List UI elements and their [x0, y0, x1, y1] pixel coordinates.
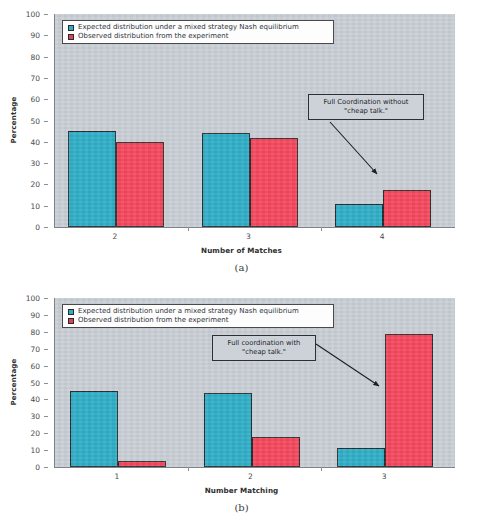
x-axis-ticks-a: 234: [54, 227, 454, 243]
bar-2-series-1: [204, 393, 252, 467]
bar-3-series-1: [202, 133, 250, 227]
panel-caption-a: (a): [0, 262, 483, 273]
y-tick-label: 80: [30, 327, 40, 336]
x-tick-label: 2: [248, 472, 253, 481]
annotation-line-2: "cheap talk.": [218, 348, 310, 357]
y-axis-title-a: Percentage: [10, 96, 18, 143]
legend-item-observed: Observed distribution from the experimen…: [68, 317, 327, 324]
x-axis-title-b: Number Matching: [0, 486, 483, 495]
y-tick-mark: [44, 416, 48, 417]
x-tick-mark: [188, 467, 189, 471]
y-tick-mark: [44, 78, 48, 79]
annotation-line-1: Full coordination with: [218, 339, 310, 348]
bar-3-series-1: [337, 448, 385, 467]
y-tick-label: 100: [26, 294, 40, 303]
legend-label-expected: Expected distribution under a mixed stra…: [78, 308, 299, 315]
y-tick-label: 0: [35, 223, 40, 232]
legend-b: Expected distribution under a mixed stra…: [62, 304, 334, 328]
y-tick-label: 20: [30, 429, 40, 438]
legend-a: Expected distribution under a mixed stra…: [62, 20, 334, 44]
x-tick-label: 3: [382, 472, 387, 481]
bar-group-a: [55, 14, 455, 227]
panel-caption-b: (b): [0, 502, 483, 513]
legend-item-expected: Expected distribution under a mixed stra…: [68, 308, 327, 315]
y-tick-label: 100: [26, 10, 40, 19]
figure-container: Percentage 0102030405060708090100 Expect…: [0, 0, 483, 525]
annotation-callout-a: Full Coordination without "cheap talk.": [308, 94, 424, 120]
bar-1-series-1: [70, 391, 118, 467]
x-axis-title-a: Number of Matches: [0, 246, 483, 255]
y-tick-mark: [44, 433, 48, 434]
y-tick-label: 30: [30, 159, 40, 168]
x-tick-mark: [321, 227, 322, 231]
bar-4-series-2: [383, 190, 431, 227]
x-tick-label: 1: [114, 472, 119, 481]
y-tick-label: 0: [35, 463, 40, 472]
legend-label-expected: Expected distribution under a mixed stra…: [78, 24, 299, 31]
y-tick-label: 10: [30, 446, 40, 455]
y-tick-label: 30: [30, 412, 40, 421]
y-tick-mark: [44, 142, 48, 143]
bar-2-series-1: [68, 131, 116, 227]
y-tick-label: 40: [30, 137, 40, 146]
y-tick-label: 50: [30, 116, 40, 125]
y-tick-label: 70: [30, 344, 40, 353]
y-tick-mark: [44, 121, 48, 122]
legend-item-observed: Observed distribution from the experimen…: [68, 33, 327, 40]
chart-panel-a: Percentage 0102030405060708090100 Expect…: [0, 0, 483, 282]
y-tick-mark: [44, 298, 48, 299]
bar-2-series-2: [252, 437, 300, 467]
chart-panel-b: Percentage 0102030405060708090100 Expect…: [0, 290, 483, 525]
legend-label-observed: Observed distribution from the experimen…: [78, 33, 228, 40]
y-tick-mark: [44, 332, 48, 333]
y-axis-title-b: Percentage: [10, 358, 18, 405]
annotation-callout-b: Full coordination with "cheap talk.": [212, 335, 316, 361]
legend-swatch-expected-icon: [68, 25, 74, 31]
plot-area-a: [54, 14, 455, 228]
y-tick-mark: [44, 450, 48, 451]
legend-label-observed: Observed distribution from the experimen…: [78, 317, 228, 324]
annotation-line-2: "cheap talk.": [314, 107, 418, 116]
y-tick-mark: [44, 99, 48, 100]
y-axis-ticks-b: 0102030405060708090100: [22, 298, 48, 466]
y-tick-label: 60: [30, 95, 40, 104]
y-tick-mark: [44, 349, 48, 350]
x-axis-ticks-b: 123: [54, 467, 454, 483]
y-tick-label: 40: [30, 395, 40, 404]
x-tick-mark: [321, 467, 322, 471]
bar-2-series-2: [116, 142, 164, 227]
legend-swatch-expected-icon: [68, 309, 74, 315]
y-tick-mark: [44, 467, 48, 468]
y-tick-label: 10: [30, 201, 40, 210]
y-tick-mark: [44, 184, 48, 185]
y-tick-mark: [44, 14, 48, 15]
x-tick-label: 2: [112, 232, 117, 241]
legend-swatch-observed-icon: [68, 34, 74, 40]
y-tick-label: 50: [30, 378, 40, 387]
y-tick-mark: [44, 206, 48, 207]
y-tick-mark: [44, 163, 48, 164]
legend-swatch-observed-icon: [68, 318, 74, 324]
x-tick-label: 4: [380, 232, 385, 241]
y-tick-mark: [44, 399, 48, 400]
y-tick-label: 70: [30, 73, 40, 82]
y-tick-mark: [44, 383, 48, 384]
y-tick-label: 90: [30, 310, 40, 319]
y-tick-mark: [44, 35, 48, 36]
legend-item-expected: Expected distribution under a mixed stra…: [68, 24, 327, 31]
bar-3-series-2: [385, 334, 433, 468]
y-tick-mark: [44, 227, 48, 228]
x-tick-label: 3: [246, 232, 251, 241]
y-tick-label: 80: [30, 52, 40, 61]
bar-4-series-1: [335, 204, 383, 227]
y-tick-label: 20: [30, 180, 40, 189]
x-tick-mark: [188, 227, 189, 231]
y-tick-label: 90: [30, 31, 40, 40]
y-tick-mark: [44, 315, 48, 316]
bar-3-series-2: [250, 138, 298, 227]
y-axis-ticks-a: 0102030405060708090100: [22, 14, 48, 226]
y-tick-mark: [44, 57, 48, 58]
annotation-line-1: Full Coordination without: [314, 98, 418, 107]
y-tick-mark: [44, 366, 48, 367]
y-tick-label: 60: [30, 361, 40, 370]
